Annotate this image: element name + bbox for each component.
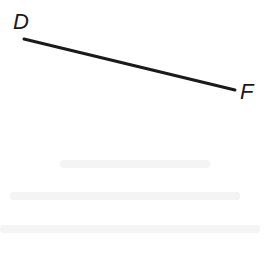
segment-svg (0, 0, 269, 253)
point-label-d: D (13, 11, 29, 33)
diagram-canvas: D F (0, 0, 269, 253)
line-segment-df (24, 39, 235, 90)
point-label-f: F (240, 81, 253, 103)
